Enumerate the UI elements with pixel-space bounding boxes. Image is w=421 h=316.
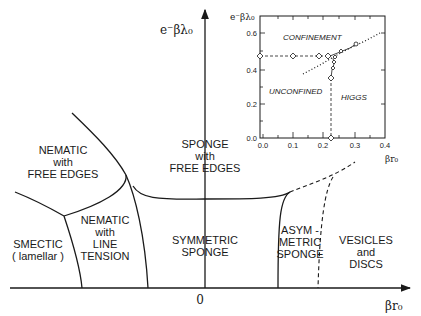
svg-text:SPONGE: SPONGE [181,246,228,258]
svg-text:NEMATIC: NEMATIC [39,144,88,156]
svg-text:METRIC: METRIC [279,236,321,248]
svg-text:SYMMETRIC: SYMMETRIC [172,234,238,246]
svg-text:DISCS: DISCS [349,258,383,270]
svg-text:SPONGE: SPONGE [181,138,228,150]
inset-chart: 0.0 0.1 0.2 0.3 0.4 0.0 0.2 0.4 0.6 e⁻βλ… [230,12,399,164]
svg-text:FREE EDGES: FREE EDGES [170,162,241,174]
region-asymmetric-sponge: ASYM - METRIC SPONGE [276,224,323,260]
svg-text:0.0: 0.0 [247,134,257,143]
inset-y-axis-label: e⁻βλ₀ [230,12,255,22]
region-nematic-free-edges: NEMATIC with FREE EDGES [28,144,99,180]
svg-text:0.2: 0.2 [318,141,328,150]
inset-x-axis-label: βr₀ [385,154,399,164]
higgs-label: HIGGS [341,93,367,102]
svg-text:0.2: 0.2 [247,100,257,109]
svg-text:with: with [52,156,73,168]
svg-text:LINE: LINE [93,238,117,250]
region-symmetric-sponge: SYMMETRIC SPONGE [172,234,238,258]
region-vesicles-discs: VESICLES and DISCS [339,234,393,270]
svg-text:SPONGE: SPONGE [276,248,323,260]
svg-text:with: with [94,226,115,238]
svg-text:0.1: 0.1 [288,141,298,150]
region-smectic: SMECTIC ( lamellar ) [12,238,64,262]
confinement-label: CONFINEMENT [283,33,343,42]
svg-text:TENSION: TENSION [81,250,130,262]
origin-label: 0 [196,293,204,307]
unconfined-label: UNCONFINED [269,87,323,96]
svg-text:0.3: 0.3 [350,141,360,150]
svg-text:ASYM -: ASYM - [281,224,319,236]
phase-diagram: NEMATIC with FREE EDGES SPONGE with FREE… [0,0,421,316]
svg-text:0.0: 0.0 [258,141,268,150]
svg-text:0.4: 0.4 [247,66,257,75]
region-nematic-line-tension: NEMATIC with LINE TENSION [81,214,130,262]
svg-text:FREE EDGES: FREE EDGES [28,168,99,180]
svg-text:with: with [194,150,215,162]
svg-text:0.4: 0.4 [380,141,390,150]
main-y-axis-label: e⁻βλ₀ [160,23,193,37]
main-x-axis-label: βr₀ [385,299,403,313]
svg-text:and: and [357,246,375,258]
svg-text:( lamellar ): ( lamellar ) [12,250,64,262]
svg-text:VESICLES: VESICLES [339,234,393,246]
svg-text:NEMATIC: NEMATIC [81,214,130,226]
region-sponge-free-edges: SPONGE with FREE EDGES [170,138,241,174]
svg-text:SMECTIC: SMECTIC [13,238,63,250]
svg-text:0.6: 0.6 [247,29,257,38]
